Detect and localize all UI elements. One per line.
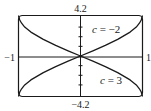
curve-label-value: = −2 xyxy=(97,23,120,35)
x-min-tick-label: −1 xyxy=(4,52,15,63)
curve-label-value: = 3 xyxy=(105,74,123,86)
curve-label-c-neg2: c = −2 xyxy=(92,23,120,35)
chart: 4.2 −4.2 −1 1 c = −2 c = 3 xyxy=(0,0,151,111)
y-max-tick-label: 4.2 xyxy=(74,3,87,14)
y-min-tick-label: −4.2 xyxy=(71,99,89,110)
curve-label-c-3: c = 3 xyxy=(100,74,123,86)
x-max-tick-label: 1 xyxy=(146,52,151,63)
